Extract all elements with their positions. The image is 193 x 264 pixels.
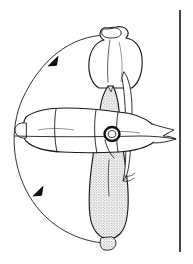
stippled-organ-terminal-knob bbox=[100, 237, 116, 250]
ring-marker-inner bbox=[108, 130, 116, 137]
figure-canvas bbox=[0, 0, 193, 264]
figure-root bbox=[0, 0, 193, 264]
rotation-arc-arrowhead-upper-fill bbox=[48, 56, 59, 67]
upper-lobe-apical-knob bbox=[102, 28, 121, 38]
horizontal-body-forked-tip bbox=[152, 124, 176, 143]
horizontal-segmented-body bbox=[15, 108, 176, 153]
rotation-arc-arrowhead-lower-fill bbox=[33, 186, 44, 197]
